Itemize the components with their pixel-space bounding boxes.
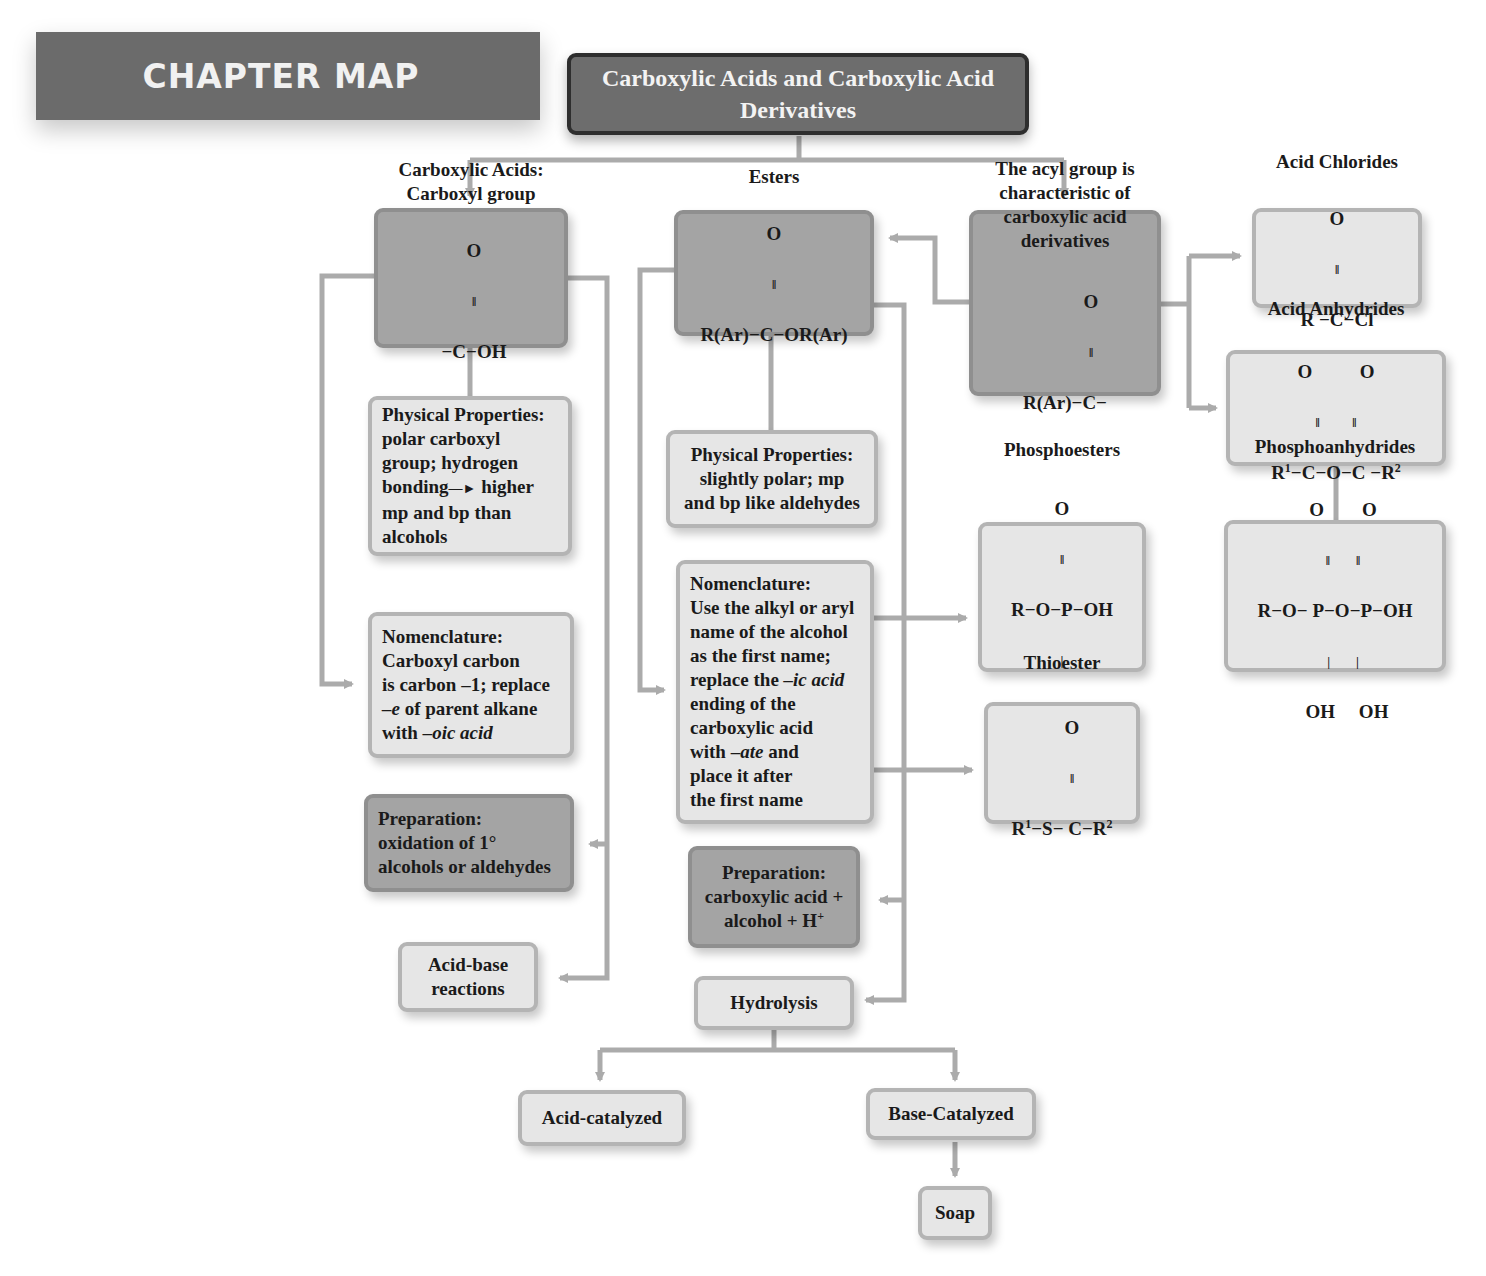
acyl-line: derivatives xyxy=(1021,229,1110,253)
soap-box: Soap xyxy=(918,1186,992,1240)
phosphoesters-title: Phosphoesters xyxy=(1004,438,1120,462)
chapter-map-banner: CHAPTER MAP xyxy=(36,32,540,120)
text-line: –e of parent alkane xyxy=(382,697,570,721)
text-line: place it after xyxy=(690,764,870,788)
carboxyl-group-subtitle: Carboxyl group xyxy=(407,182,536,206)
ester-formula: O ‖ R(Ar)−C−OR(Ar) xyxy=(700,189,847,381)
text-line: slightly polar; mp xyxy=(700,467,845,491)
text-line: alcohols xyxy=(382,525,568,549)
text-line: Nomenclature: xyxy=(690,572,870,596)
text-line: the first name xyxy=(690,788,870,812)
ester-nomenclature-box: Nomenclature: Use the alkyl or aryl name… xyxy=(676,560,874,824)
text-line: Physical Properties: xyxy=(691,443,854,467)
thioester-main: R1−S− C−R2 xyxy=(1012,820,1113,839)
esters-box: Esters O ‖ R(Ar)−C−OR(Ar) xyxy=(674,210,874,336)
acid-nomenclature-box: Nomenclature: Carboxyl carbon is carbon … xyxy=(368,612,574,758)
text-line: Physical Properties: xyxy=(382,403,568,427)
arrow-right-icon: —► xyxy=(449,481,477,496)
chapter-map-label: CHAPTER MAP xyxy=(142,57,419,96)
acid-catalyzed-box: Acid-catalyzed xyxy=(518,1090,686,1146)
text-line: alcohols or aldehydes xyxy=(378,855,570,879)
phosphoanhydrides-box: Phosphoanhydrides O O ‖ ‖ R−O− P−O−P−OH … xyxy=(1224,520,1446,672)
ester-physical-properties-box: Physical Properties: slightly polar; mp … xyxy=(666,430,878,528)
acid-catalyzed-label: Acid-catalyzed xyxy=(542,1106,662,1130)
text-line: Nomenclature: xyxy=(382,625,570,649)
acid-preparation-box: Preparation: oxidation of 1° alcohols or… xyxy=(364,794,574,892)
title-line-2: Derivatives xyxy=(602,94,994,126)
phosphoanhydride-formula: O O ‖ ‖ R−O− P−O−P−OH | | OH OH xyxy=(1258,465,1413,758)
acid-physical-properties-box: Physical Properties: polar carboxyl grou… xyxy=(368,396,572,556)
text-line: mp and bp than xyxy=(382,501,568,525)
esters-title: Esters xyxy=(749,165,800,189)
hydrolysis-box: Hydrolysis xyxy=(694,976,854,1030)
text-line: Preparation: xyxy=(378,807,570,831)
acyl-formula: O ‖ R(Ar)−C− xyxy=(1023,257,1107,449)
carboxylic-acids-box: Carboxylic Acids: Carboxyl group O ‖ −C−… xyxy=(374,208,568,348)
text-line: reactions xyxy=(431,977,505,1001)
acyl-line: The acyl group is xyxy=(995,157,1135,181)
hydrolysis-label: Hydrolysis xyxy=(730,991,817,1015)
text-line: Acid-base xyxy=(428,953,508,977)
thioester-box: Thioester O ‖ R1−S− C−R2 xyxy=(984,702,1140,824)
acid-base-reactions-box: Acid-base reactions xyxy=(398,942,538,1012)
text-line: replace the –ic acid xyxy=(690,668,870,692)
acyl-line: carboxylic acid xyxy=(1004,205,1127,229)
phosphoesters-box: Phosphoesters O ‖ R−O−P−OH | OH xyxy=(978,522,1146,672)
carboxyl-formula: O ‖ −C−OH xyxy=(442,206,507,398)
text-line: carboxylic acid xyxy=(690,716,870,740)
thioester-title: Thioester xyxy=(1023,651,1100,675)
acid-chlorides-box: Acid Chlorides O ‖ R −C−Cl xyxy=(1252,208,1422,308)
text-line: bonding—► higher xyxy=(382,475,568,501)
ester-preparation-box: Preparation: carboxylic acid + alcohol +… xyxy=(688,846,860,948)
soap-label: Soap xyxy=(935,1201,975,1225)
diagram-title-box: Carboxylic Acids and Carboxylic Acid Der… xyxy=(567,53,1029,135)
text-line: Preparation: xyxy=(722,861,826,885)
text-line: alcohol + H+ xyxy=(724,909,824,933)
text-line: oxidation of 1° xyxy=(378,831,570,855)
text-line: Use the alkyl or aryl xyxy=(690,596,870,620)
carboxylic-acids-title: Carboxylic Acids: xyxy=(398,158,543,182)
text-line: carboxylic acid + xyxy=(705,885,844,909)
title-line-1: Carboxylic Acids and Carboxylic Acid xyxy=(602,62,994,94)
text-line: is carbon –1; replace xyxy=(382,673,570,697)
thioester-formula: O ‖ R1−S− C−R2 xyxy=(1012,683,1113,875)
acyl-line: characteristic of xyxy=(999,181,1130,205)
base-catalyzed-box: Base-Catalyzed xyxy=(866,1088,1036,1140)
text-line: name of the alcohol xyxy=(690,620,870,644)
text-line: as the first name; xyxy=(690,644,870,668)
acid-chlorides-title: Acid Chlorides xyxy=(1276,150,1398,174)
acid-anhydrides-title: Acid Anhydrides xyxy=(1268,297,1405,321)
text-line: with –oic acid xyxy=(382,721,570,745)
phosphoanhydrides-title: Phosphoanhydrides xyxy=(1255,435,1416,459)
acyl-group-box: The acyl group is characteristic of carb… xyxy=(969,210,1161,396)
text-line: Carboxyl carbon xyxy=(382,649,570,673)
text-line: and bp like aldehydes xyxy=(684,491,860,515)
text-line: ending of the xyxy=(690,692,870,716)
base-catalyzed-label: Base-Catalyzed xyxy=(888,1102,1014,1126)
text-line: polar carboxyl xyxy=(382,427,568,451)
text-line: group; hydrogen xyxy=(382,451,568,475)
text-line: with –ate and xyxy=(690,740,870,764)
